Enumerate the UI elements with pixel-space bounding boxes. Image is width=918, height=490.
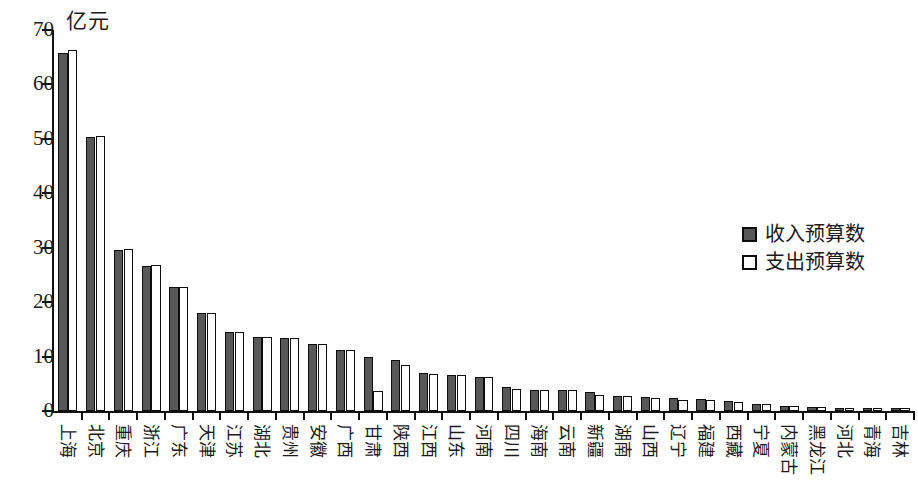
bar-group: [58, 30, 77, 411]
x-axis-tick-label: 内蒙古: [780, 424, 798, 442]
bar-expenditure: [68, 50, 77, 411]
hollow-white-square-icon: [742, 255, 757, 270]
y-axis-tick-label: 20: [20, 291, 54, 312]
bar-expenditure: [96, 136, 105, 411]
bar-income: [891, 408, 900, 411]
x-axis-line: [52, 411, 914, 413]
bar-group: [419, 30, 438, 411]
x-axis-tick-label: 云南: [558, 424, 576, 442]
x-axis-tick: [691, 411, 693, 420]
x-axis-tick: [330, 411, 332, 420]
y-axis-tick-label: 40: [20, 182, 54, 203]
y-axis-tick-label: 50: [20, 128, 54, 149]
bar-group: [724, 30, 743, 411]
bar-income: [669, 398, 678, 411]
bar-income: [752, 404, 761, 411]
x-axis-tick: [913, 411, 915, 420]
bar-group: [114, 30, 133, 411]
bar-group: [336, 30, 355, 411]
x-axis-tick-label: 陕西: [392, 424, 410, 442]
bar-group: [585, 30, 604, 411]
y-axis-tick-label: 0: [20, 400, 54, 421]
y-axis-tick-label: 60: [20, 73, 54, 94]
bar-expenditure: [900, 408, 909, 411]
legend-item: 收入预算数: [742, 220, 865, 248]
bar-income: [86, 137, 95, 411]
x-axis-tick-label: 重庆: [114, 424, 132, 442]
bar-group: [863, 30, 882, 411]
x-axis-tick: [663, 411, 665, 420]
bar-income: [253, 337, 262, 411]
bar-expenditure: [207, 313, 216, 411]
bar-expenditure: [290, 338, 299, 411]
x-axis-tick-label: 新疆: [586, 424, 604, 442]
x-axis-tick-label: 吉林: [891, 424, 909, 442]
x-axis-tick: [885, 411, 887, 420]
bar-income: [863, 408, 872, 411]
bar-expenditure: [789, 406, 798, 411]
legend-item-label: 收入预算数: [765, 224, 865, 244]
x-axis-tick-label: 湖南: [614, 424, 632, 442]
filled-dark-square-icon: [742, 227, 757, 242]
bar-expenditure: [623, 396, 632, 411]
bar-group: [530, 30, 549, 411]
bar-income: [280, 338, 289, 411]
bar-income: [807, 407, 816, 411]
bar-expenditure: [678, 400, 687, 411]
bar-group: [391, 30, 410, 411]
bar-income: [585, 392, 594, 411]
bar-group: [253, 30, 272, 411]
x-axis-tick: [469, 411, 471, 420]
bar-expenditure: [401, 365, 410, 411]
bar-expenditure: [512, 389, 521, 411]
x-axis-tick: [219, 411, 221, 420]
bar-expenditure: [151, 265, 160, 411]
bar-income: [780, 406, 789, 411]
bar-income: [114, 250, 123, 411]
x-axis-tick-label: 安徽: [309, 424, 327, 442]
bar-group: [169, 30, 188, 411]
x-axis-tick-label: 山西: [641, 424, 659, 442]
x-axis-tick: [830, 411, 832, 420]
x-axis-tick: [552, 411, 554, 420]
bar-income: [308, 344, 317, 411]
bar-expenditure: [346, 350, 355, 412]
bar-income: [530, 390, 539, 411]
bar-expenditure: [429, 374, 438, 411]
bar-expenditure: [457, 375, 466, 411]
bar-income: [169, 287, 178, 411]
bar-income: [364, 357, 373, 411]
bar-income: [835, 408, 844, 411]
x-axis-tick-label: 辽宁: [669, 424, 687, 442]
x-axis-tick: [580, 411, 582, 420]
x-axis-tick-label: 西藏: [725, 424, 743, 442]
bar-income: [475, 377, 484, 411]
x-axis-tick-label: 湖北: [253, 424, 271, 442]
legend-item: 支出预算数: [742, 248, 865, 276]
bar-income: [391, 360, 400, 411]
x-axis-tick: [108, 411, 110, 420]
x-axis-tick: [525, 411, 527, 420]
x-axis-tick-label: 海南: [530, 424, 548, 442]
bar-income: [724, 401, 733, 411]
bar-group: [502, 30, 521, 411]
bar-income: [197, 313, 206, 411]
bar-group: [447, 30, 466, 411]
bar-expenditure: [484, 377, 493, 411]
bar-income: [502, 387, 511, 411]
bar-expenditure: [706, 400, 715, 411]
bar-income: [225, 332, 234, 411]
x-axis-tick: [275, 411, 277, 420]
bar-expenditure: [568, 390, 577, 411]
bar-group: [891, 30, 910, 411]
x-axis-tick: [386, 411, 388, 420]
legend-item-label: 支出预算数: [765, 252, 865, 272]
x-axis-tick-label: 上海: [59, 424, 77, 442]
x-axis-tick-label: 黑龙江: [808, 424, 826, 442]
bar-income: [641, 397, 650, 411]
x-axis-tick: [247, 411, 249, 420]
bar-expenditure: [762, 404, 771, 411]
bar-group: [641, 30, 660, 411]
x-axis-tick-label: 江西: [420, 424, 438, 442]
bar-expenditure: [734, 402, 743, 411]
